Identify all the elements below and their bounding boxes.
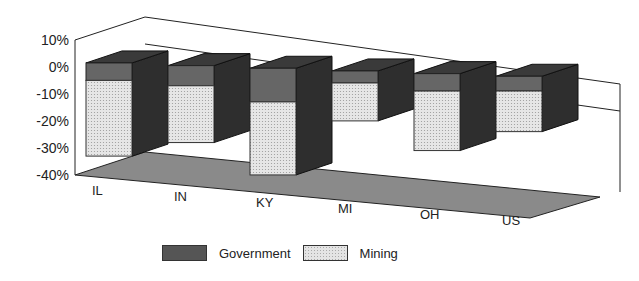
- legend-swatch-government: [162, 245, 207, 261]
- bar-chart-3d: 10%0%-10%-20%-30%-40%ILINKYMIOHUS: [0, 0, 639, 245]
- y-tick-label: -10%: [36, 86, 69, 102]
- y-tick-label: -30%: [36, 140, 69, 156]
- legend-label-government: Government: [219, 246, 291, 261]
- bar-oh: [414, 62, 496, 151]
- bar-ky: [250, 56, 332, 175]
- x-tick-label: KY: [256, 195, 274, 210]
- y-tick-label: -20%: [36, 113, 69, 129]
- bar-in: [168, 54, 250, 143]
- x-tick-label: MI: [338, 201, 352, 216]
- y-tick-label: 10%: [41, 32, 69, 48]
- x-tick-label: IL: [92, 183, 103, 198]
- bar-il: [86, 51, 168, 156]
- legend: Government Mining: [162, 245, 410, 261]
- x-tick-label: US: [502, 213, 520, 228]
- bar-us: [496, 64, 578, 131]
- legend-label-mining: Mining: [360, 246, 398, 261]
- y-tick-label: 0%: [49, 59, 69, 75]
- x-tick-label: IN: [174, 189, 187, 204]
- bar-mi: [332, 59, 414, 121]
- legend-swatch-mining: [303, 245, 348, 261]
- x-tick-label: OH: [420, 207, 440, 222]
- y-tick-label: -40%: [36, 167, 69, 183]
